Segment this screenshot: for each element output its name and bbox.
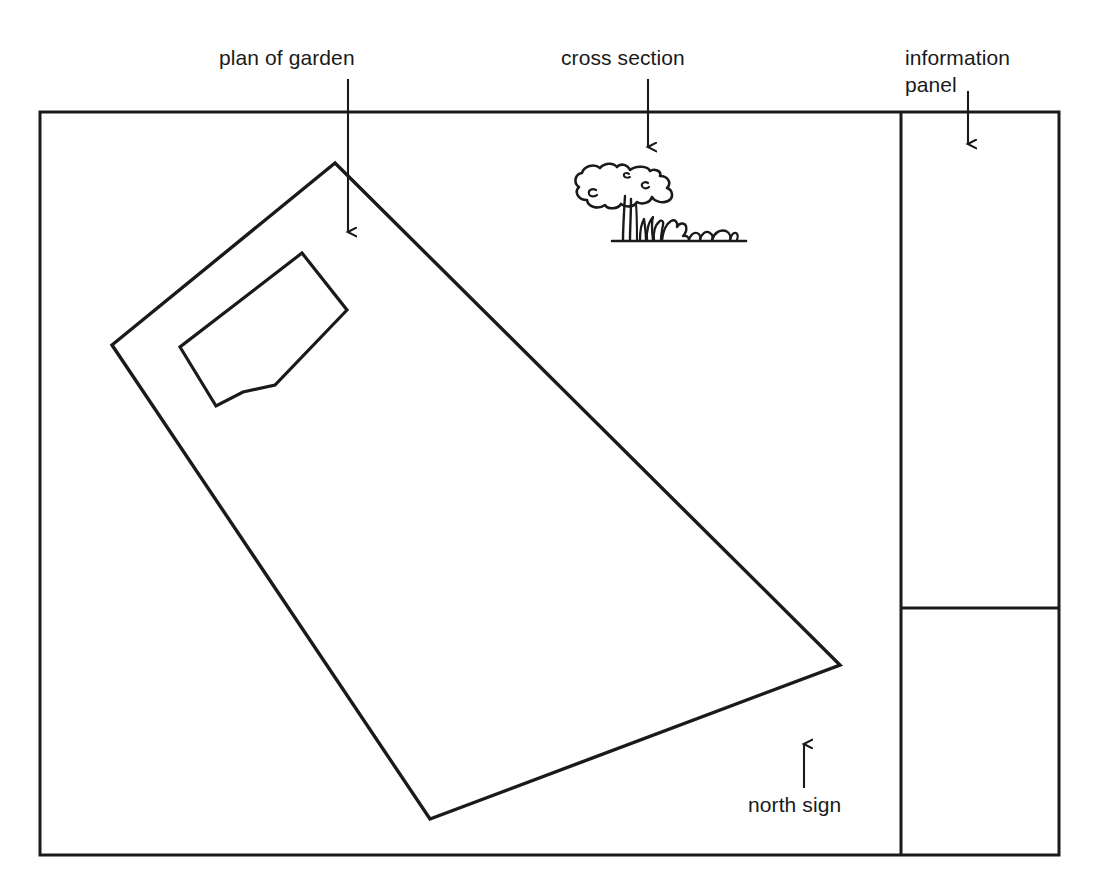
callout-label-plan-of-garden: plan of garden [219, 44, 355, 71]
callout-label-information-panel: information panel [905, 44, 1010, 98]
diagram-canvas: plan of garden cross section information… [0, 0, 1100, 889]
building-footprint-polygon [180, 253, 347, 406]
outer-frame [40, 112, 1059, 855]
garden-plot-polygon [112, 163, 840, 819]
diagram-drawing [0, 0, 1100, 889]
callout-label-north-sign: north sign [748, 791, 841, 818]
tree-icon [575, 164, 672, 240]
callout-label-cross-section: cross section [561, 44, 685, 71]
shrub-icon [612, 217, 746, 241]
